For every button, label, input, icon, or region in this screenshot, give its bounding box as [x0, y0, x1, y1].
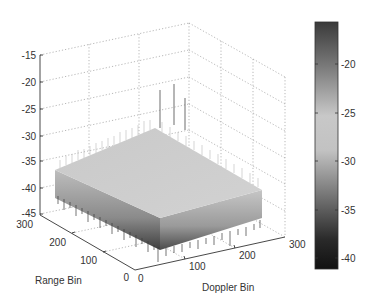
colorbar-tick: -40	[341, 253, 356, 264]
z-tick: -15	[22, 50, 37, 61]
z-tick: -35	[22, 156, 37, 167]
z-tick: -20	[22, 77, 37, 88]
colorbar-tick: -30	[341, 156, 356, 167]
doppler-tick: 100	[189, 261, 206, 272]
z-tick: -40	[22, 183, 37, 194]
range-tick: 100	[80, 255, 97, 266]
z-tick: -45	[22, 208, 37, 219]
z-tick: -25	[22, 104, 37, 115]
colorbar-tick: -25	[341, 108, 356, 119]
colorbar: -20 -25 -30 -35 -40	[315, 22, 356, 269]
range-tick: 0	[123, 272, 129, 283]
noise-surface	[55, 84, 262, 262]
doppler-tick: 0	[138, 273, 144, 284]
colorbar-tick: -20	[341, 59, 356, 70]
surface-plot-figure: -15 -20 -25 -30 -35 -40 -45 300 200 100 …	[0, 0, 373, 304]
z-tick: -30	[22, 131, 37, 142]
range-axis-label: Range Bin	[35, 275, 82, 286]
range-tick: 200	[49, 237, 66, 248]
doppler-tick: 200	[239, 250, 256, 261]
range-tick-labels: 300 200 100 0	[16, 219, 129, 283]
z-tick-labels: -15 -20 -25 -30 -35 -40 -45	[22, 50, 37, 219]
range-tick: 300	[16, 219, 33, 230]
doppler-axis-label: Doppler Bin	[202, 282, 254, 293]
target-peaks	[160, 84, 185, 130]
doppler-tick: 300	[289, 239, 306, 250]
colorbar-tick: -35	[341, 205, 356, 216]
